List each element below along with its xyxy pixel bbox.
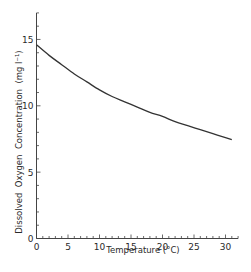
x-tick-label: 10 [94,242,106,252]
x-tick-label: 25 [188,242,199,252]
y-axis-title: Dissolved Oxygen Concentration (mg l⁻¹) [14,50,24,233]
oxygen-curve [37,45,232,140]
x-tick-label: 30 [220,242,232,252]
x-tick-label: 0 [34,242,40,252]
line-chart: 051015 051015202530 Temperature (°C) Dis… [0,0,251,272]
x-tick-label: 5 [65,242,71,252]
y-tick-label: 15 [22,35,33,45]
x-axis-title: Temperature (°C) [105,245,179,255]
y-tick-label: 5 [28,168,34,178]
y-axis: 051015 [22,13,40,244]
